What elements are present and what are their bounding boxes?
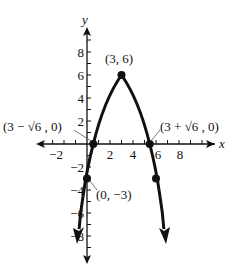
parabola-curve [79,75,164,229]
x-axis-label: x [218,136,225,151]
left-root-leader [74,130,91,141]
y-tick-label: −2 [70,160,84,175]
vertex-label: (3, 6) [105,51,133,66]
x-tick-label: 4 [130,147,137,162]
y-tick-label: 2 [78,114,85,129]
parabola-graph: −2 2 4 6 8 x 8 [0,0,229,264]
y-tick-label: 6 [78,68,85,83]
right-root-leader [151,130,160,141]
symmetric-point [152,175,160,183]
vertex-point [118,71,126,79]
left-root-point [89,140,97,148]
right-root-point [146,140,154,148]
right-root-label: (3 + √6 , 0) [160,119,219,134]
x-axis: −2 2 4 6 8 x [36,136,225,162]
x-tick-label: 6 [155,147,162,162]
x-tick-label: −2 [49,147,63,162]
x-tick-label: 2 [107,147,114,162]
y-intercept-label: (0, −3) [96,187,132,202]
x-tick-label: 8 [177,147,184,162]
y-tick-label: 4 [78,91,85,106]
y-tick-label: 8 [78,45,85,60]
curve-arrow-right-icon [159,227,170,244]
left-root-label: (3 − √6 , 0) [3,119,62,134]
y-axis-label: y [80,12,88,27]
